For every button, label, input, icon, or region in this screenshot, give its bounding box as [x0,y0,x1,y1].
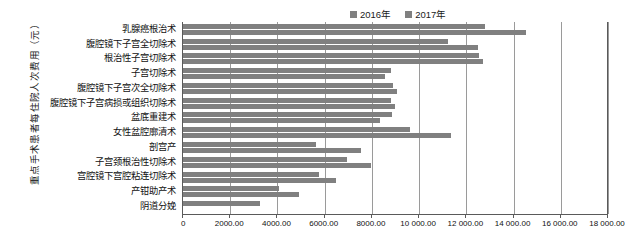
bar-row [183,22,608,37]
category-label: 腹腔镜下子宫病损或组织切除术 [22,96,180,111]
x-tick-label: 0 [181,219,185,228]
bar-2017年[interactable] [183,178,336,183]
bar-2017年[interactable] [183,74,385,79]
bar-row [183,140,608,155]
bar-row [183,155,608,170]
x-tick-mark [324,214,325,218]
bar-row [183,96,608,111]
x-tick-mark [229,214,230,218]
bar-2017年[interactable] [183,45,478,50]
bar-2017年[interactable] [183,163,371,168]
category-axis-labels: 乳腺癌根治术腹腔镜下子宫全切除术根治性子宫切除术子宫切除术腹腔镜下子宫次全切除术… [22,22,180,214]
legend-swatch-icon [350,11,357,18]
chart-legend: 2016年2017年 [350,7,446,21]
bar-2016年[interactable] [183,24,485,29]
category-label: 产钳助产术 [22,184,180,199]
bar-rows [183,22,608,214]
bar-row [183,81,608,96]
bar-2016年[interactable] [183,186,279,191]
bar-2016年[interactable] [183,83,393,88]
chart-container: 重点手术患者每住院人次费用（元） 2016年2017年 乳腺癌根治术腹腔镜下子宫… [0,0,626,246]
legend-label: 2017年 [415,7,446,21]
bar-row [183,184,608,199]
bar-row [183,111,608,126]
bar-row [183,199,608,214]
x-tick-mark [418,214,419,218]
x-tick-mark [371,214,372,218]
bar-2017年[interactable] [183,148,361,153]
category-label: 根治性子宫切除术 [22,52,180,67]
category-label: 乳腺癌根治术 [22,22,180,37]
x-tick-mark [513,214,514,218]
x-tick-mark [276,214,277,218]
category-label: 宫腔镜下宫腔粘连切除术 [22,170,180,185]
bar-2016年[interactable] [183,112,392,117]
x-axis-ticks: 02000.004000.006000.008000.0010 000.0012… [182,214,607,224]
bar-2016年[interactable] [183,201,260,206]
bar-2017年[interactable] [183,30,526,35]
category-label: 女性盆腔廓清术 [22,125,180,140]
x-tick-label: 18 000.00 [589,219,625,228]
bar-row [183,125,608,140]
bar-2016年[interactable] [183,39,448,44]
category-label: 腹腔镜下子宫全切除术 [22,37,180,52]
bar-2017年[interactable] [183,192,299,197]
category-label: 腹腔镜下子宫次全切除术 [22,81,180,96]
category-label: 剖宫产 [22,140,180,155]
x-tick-label: 14 000.00 [495,219,531,228]
x-tick-label: 4000.00 [262,219,291,228]
x-tick-label: 10 000.00 [400,219,436,228]
category-label: 盆底重建术 [22,111,180,126]
bar-row [183,66,608,81]
bar-2016年[interactable] [183,127,410,132]
plot-right-border [607,22,608,215]
bar-2017年[interactable] [183,89,397,94]
x-tick-label: 16 000.00 [542,219,578,228]
bar-2016年[interactable] [183,68,391,73]
bar-2017年[interactable] [183,133,451,138]
bar-row [183,52,608,67]
bar-2016年[interactable] [183,53,479,58]
bar-2016年[interactable] [183,172,319,177]
x-tick-label: 6000.00 [309,219,338,228]
bar-2017年[interactable] [183,118,380,123]
bar-2016年[interactable] [183,142,316,147]
x-tick-mark [182,214,183,218]
bar-2016年[interactable] [183,157,347,162]
legend-label: 2016年 [360,7,391,21]
x-tick-mark [465,214,466,218]
bar-2017年[interactable] [183,59,483,64]
x-tick-label: 2000.00 [215,219,244,228]
bar-2017年[interactable] [183,104,395,109]
category-label: 阴道分娩 [22,199,180,214]
legend-item-1[interactable]: 2016年 [350,7,391,21]
x-tick-label: 8000.00 [356,219,385,228]
gridline [608,22,609,214]
bar-row [183,170,608,185]
plot-area [182,22,608,215]
x-tick-mark [560,214,561,218]
category-label: 子宫颈根治性切除术 [22,155,180,170]
x-tick-mark [607,214,608,218]
legend-item-2[interactable]: 2017年 [405,7,446,21]
bar-row [183,37,608,52]
category-label: 子宫切除术 [22,66,180,81]
x-tick-label: 12 000.00 [448,219,484,228]
bar-2016年[interactable] [183,98,391,103]
legend-swatch-icon [405,11,412,18]
